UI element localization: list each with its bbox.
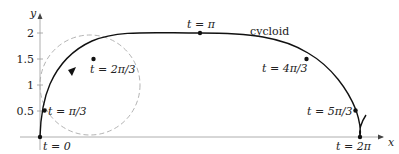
cycloid-curve (40, 33, 366, 137)
label-t-pi-3: t = π/3 (48, 105, 87, 118)
direction-arrow-icon (68, 67, 76, 76)
x-axis-arrow-icon (378, 135, 384, 140)
label-t-4pi-3: t = 4π/3 (262, 62, 308, 75)
y-tick-1.5: 1.5 (17, 53, 35, 66)
label-t-2pi-3: t = 2π/3 (90, 63, 136, 76)
label-t-5pi-3: t = 5π/3 (307, 105, 353, 118)
curve-points (38, 31, 362, 139)
x-axis-label: x (388, 136, 395, 149)
y-ticks: 0.5 1 1.5 2 (17, 27, 44, 118)
rolling-circle (40, 35, 140, 135)
cycloid-diagram: x y 0.5 1 1.5 2 t = 0 t = π/3 t = 2π/3 t… (0, 0, 399, 154)
y-tick-1: 1 (27, 79, 34, 92)
label-t-2pi: t = 2π (336, 140, 372, 153)
cycloid-label: cycloid (250, 25, 289, 38)
y-axis-arrow-icon (38, 13, 43, 19)
y-tick-0.5: 0.5 (17, 105, 35, 118)
y-axis-label: y (29, 7, 37, 20)
y-tick-2: 2 (27, 27, 34, 40)
label-t-0: t = 0 (43, 140, 71, 153)
label-t-pi: t = π (187, 18, 216, 31)
